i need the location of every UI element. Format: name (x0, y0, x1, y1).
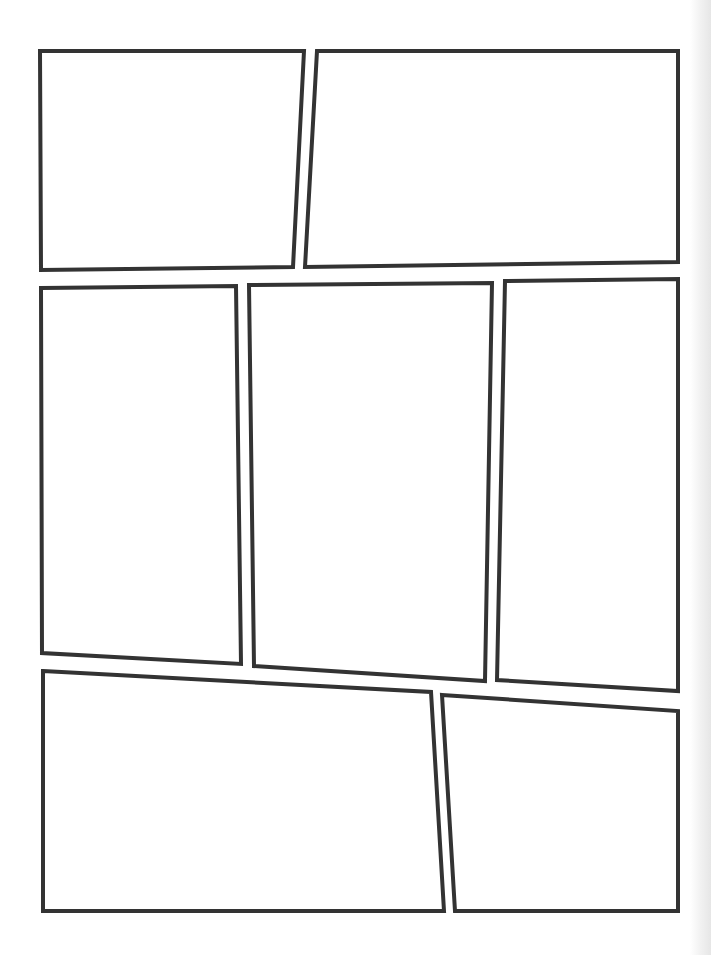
panel-4 (249, 283, 492, 681)
panel-6 (43, 671, 444, 911)
panel-7 (442, 695, 678, 911)
panel-2 (305, 51, 678, 267)
comic-page (0, 0, 711, 955)
panel-1 (40, 51, 304, 270)
panel-3 (41, 286, 241, 664)
panel-layout (0, 0, 711, 955)
panel-5 (497, 279, 678, 691)
